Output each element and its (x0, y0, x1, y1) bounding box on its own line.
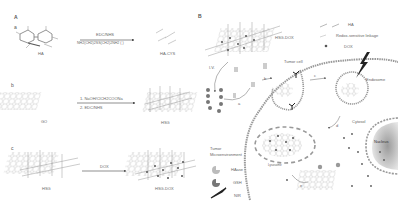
step-c-arrow (310, 78, 326, 80)
ha-structure (16, 26, 58, 48)
legend-redox-label: Redox-sensitive linkage (336, 34, 378, 38)
dox-dot-icon (325, 45, 328, 48)
cd44-receptor-icon-2 (289, 103, 295, 110)
step-b-label: b (264, 77, 266, 81)
ha-cys-product (156, 29, 176, 44)
nucleus-label: Nucleus (374, 140, 388, 144)
nir-bolt-icon (356, 52, 370, 78)
nir-label: NIR (234, 194, 241, 198)
lysosome-cargo (262, 133, 302, 157)
tumor-env-title-1: Tumor (210, 147, 221, 151)
redox-linkage-icon (320, 35, 326, 37)
ha-line-icon (320, 24, 339, 27)
hsg-dox-nanoparticle (205, 22, 282, 56)
internalized-particle (275, 83, 293, 97)
lysosome-label: Lysosome (268, 164, 282, 167)
hsg-label-b: HSG (161, 121, 170, 125)
endosome-cargo (341, 83, 359, 97)
haase-icon (212, 166, 220, 174)
reagent-cystamine: NH2(CH2)2SS(CH2)2NH2 ( ) (77, 42, 124, 46)
hsg-reactant (3, 150, 80, 178)
reagent-step1: 1. NaOH/ClCH2COONa (80, 97, 123, 101)
step-a-arrow (224, 88, 250, 100)
nucleus (372, 122, 398, 170)
legend-dox-label: DOX (344, 45, 353, 49)
hsg-label-c: HSG (42, 187, 51, 191)
step-c-label: c (314, 74, 316, 78)
iv-label: I.V. (209, 66, 215, 70)
step-d-label: d (336, 124, 338, 128)
ha-cys-label: HA-CYS (160, 52, 175, 56)
panel-b-letter: B (198, 13, 202, 19)
reagent-edc-nhs-a: EDC/NHS (96, 33, 114, 37)
blood-cells (206, 88, 223, 113)
hsg-product-b (142, 86, 197, 112)
tumor-env-title-2: Microenvironment (210, 153, 242, 157)
reagent-step2: 2. EDC/NHS (80, 106, 102, 110)
step-a-label: a (238, 102, 240, 106)
step-e-label: e (300, 184, 302, 188)
go-sheet (0, 92, 41, 110)
hsg-dox-product-c (123, 148, 196, 180)
gsh-icon (212, 179, 220, 187)
cytosol-label: Cytosol (352, 120, 365, 124)
hsg-dox-label-c: HSG-DOX (155, 187, 174, 191)
hsg-dox-label-b: HSG-DOX (275, 36, 294, 40)
go-label: GO (41, 120, 47, 124)
reagent-dox: DOX (100, 165, 109, 169)
ha-label: HA (38, 52, 44, 56)
legend-ha-label: HA (348, 23, 354, 27)
circulating-particles (233, 63, 267, 98)
tumor-cell-label: Tumor cell (284, 60, 303, 64)
endosome-label: Endosome (366, 78, 385, 82)
released-hsg (296, 163, 340, 190)
iv-arrow (215, 62, 228, 92)
gsh-label: GSH (233, 181, 242, 185)
scheme-canvas (0, 0, 398, 208)
nir-icon (211, 188, 226, 198)
haase-label: HAase (231, 168, 243, 172)
